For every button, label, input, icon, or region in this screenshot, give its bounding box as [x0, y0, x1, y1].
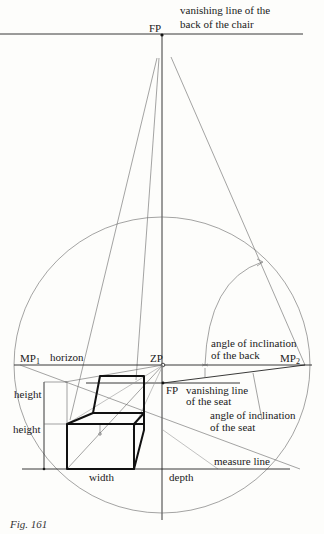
seat-inclination-line	[163, 365, 305, 383]
chair-base-front	[67, 424, 134, 469]
label-vanishing-back-1: vanishing line of the	[180, 4, 270, 16]
perspective-diagram: vanishing line of the back of the chair …	[0, 0, 324, 534]
measure-ray	[163, 430, 218, 469]
chair-base-right	[67, 424, 144, 469]
ray-2	[70, 58, 157, 420]
figure-caption: Fig. 161	[9, 518, 47, 530]
label-angle-back-1: angle of inclination	[211, 337, 297, 349]
label-depth: depth	[169, 471, 194, 483]
label-mp1: MP1	[20, 352, 40, 366]
label-vanishing-seat-2: of the seat	[186, 395, 231, 407]
label-fp-seat: FP	[166, 384, 178, 396]
label-zp: ZP	[150, 352, 163, 364]
ray-to-zp-2	[65, 365, 163, 382]
label-width: width	[89, 471, 115, 483]
chair	[67, 376, 144, 469]
label-fp-top: FP	[149, 22, 161, 34]
label-height-upper: height	[14, 388, 42, 400]
depth-point	[99, 433, 101, 435]
chair-seat-top	[67, 413, 144, 424]
ray-to-zp-4	[67, 365, 163, 424]
label-angle-seat-1: angle of inclination	[210, 409, 296, 421]
ray-to-mp2	[171, 57, 305, 365]
label-height-lower: height	[13, 423, 41, 435]
label-measure-line: measure line	[214, 455, 270, 467]
label-mp2: MP2	[280, 352, 300, 366]
label-vanishing-back-2: back of the chair	[180, 18, 254, 30]
label-horizon: horizon	[50, 351, 84, 363]
label-angle-seat-2: of the seat	[210, 421, 255, 433]
label-angle-back-2: of the back	[211, 349, 260, 361]
